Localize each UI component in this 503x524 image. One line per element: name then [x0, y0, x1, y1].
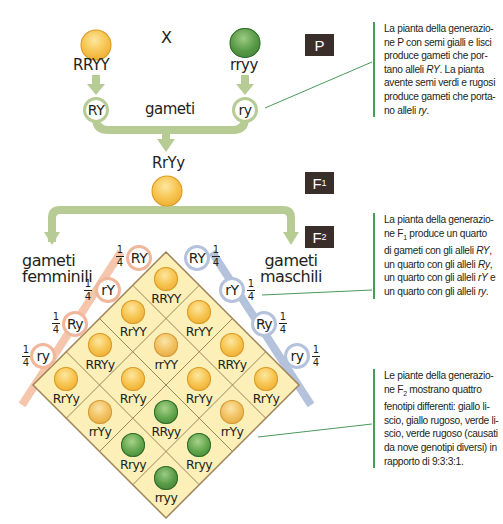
cell-rryy: rryy: [155, 490, 177, 505]
cell-RrYy-3: RrYy: [186, 391, 212, 406]
p-generation-note: La pianta della generazio- ne P con semi…: [373, 22, 502, 117]
male-gamete-ry: ry: [284, 343, 310, 369]
f1-note-line: un quarto con gli alleli rY e: [384, 271, 502, 285]
f1-note-text: un quarto con gli alleli: [384, 286, 478, 297]
fraction-female-rY: 14: [84, 279, 92, 302]
f2-note-line: rapporto di 9:3:3:1.: [384, 455, 502, 469]
frac-den: 4: [248, 291, 254, 302]
p-note-allele: RY: [426, 64, 439, 75]
f2-note-line: scio, verde rugoso (causati: [384, 427, 502, 441]
frac-den: 4: [53, 324, 59, 335]
f2-note-text: mostrano quattro: [407, 384, 482, 395]
f1-note-line: un quarto con gli alleli Ry,: [384, 258, 502, 272]
frac-num: 1: [23, 344, 29, 355]
f2-split-connector: [52, 210, 291, 242]
male-gamete-rY: rY: [219, 277, 245, 303]
parent-green-wrinkled-seed: [230, 28, 261, 58]
frac-den: 4: [117, 257, 123, 268]
cross-symbol: X: [161, 28, 171, 47]
f1-note-line: di gameti con gli alleli RY,: [384, 244, 502, 258]
f2-note-connector: [258, 424, 372, 437]
badge-p-text: P: [314, 37, 324, 54]
male-label-line2: maschili: [260, 269, 322, 285]
f2-note-line: da nove genotipi diversi) in: [384, 441, 502, 455]
p-note-line: tano alleli RY. La pianta: [384, 63, 502, 77]
cell-RrYY-a: RrYY: [120, 324, 147, 339]
frac-num: 1: [248, 278, 254, 289]
p-note-line: La pianta della generazio-: [384, 22, 502, 36]
f2-note-line: scio, giallo rugoso, verde li-: [384, 414, 502, 428]
seed-RrYy-4: [254, 367, 278, 391]
seed-RrYy-2: [121, 367, 145, 391]
p-note-line: no alleli ry.: [384, 104, 502, 118]
f2-generation-note: Le piante della generazio- ne F2 mostran…: [373, 369, 502, 468]
gamete-merge-connector: [96, 118, 245, 130]
cell-Rryy-a: Rryy: [120, 457, 146, 472]
cell-RRYy-a: RRYy: [85, 357, 114, 372]
f1-note-line: ne F1 produce un quarto: [384, 227, 502, 245]
seed-rryy: [154, 466, 178, 490]
male-gamete-RY: RY: [184, 245, 210, 271]
seed-RRYy-b: [220, 333, 244, 357]
f1-note-allele: RY: [476, 245, 489, 256]
seed-RrYy-3: [187, 367, 211, 391]
badge-f1: F1: [305, 172, 334, 194]
f2-note-line: fenotipi differenti: giallo li-: [384, 400, 502, 414]
f1-note-text: e: [487, 272, 495, 283]
badge-p: P: [305, 34, 334, 56]
seed-RrYY-a: [121, 300, 145, 324]
seed-rrYy-b: [220, 400, 244, 424]
cell-rrYy-b: rrYy: [221, 424, 244, 439]
fraction-male-Ry: 14: [279, 312, 287, 335]
badge-f2-letter: F: [312, 229, 321, 246]
fraction-female-RY: 14: [116, 245, 124, 268]
f1-generation-note: La pianta della generazio- ne F1 produce…: [373, 213, 502, 299]
seed-rrYy-a: [88, 400, 112, 424]
female-gamete-rY: rY: [95, 277, 121, 303]
f1-note-text: produce un quarto: [407, 228, 487, 239]
male-gametes-label: gameti maschili: [260, 253, 322, 285]
cell-Rryy-b: Rryy: [186, 457, 212, 472]
gametes-label: gameti: [145, 100, 195, 118]
p-note-line: ne P con semi gialli e lisci: [384, 36, 502, 50]
frac-num: 1: [213, 244, 219, 255]
frac-den: 4: [313, 357, 319, 368]
fraction-male-rY: 14: [247, 279, 255, 302]
frac-den: 4: [85, 291, 91, 302]
badge-f2: F2: [305, 226, 334, 248]
f1-note-connector: [262, 290, 372, 295]
f1-note-text: di gameti con gli alleli: [384, 245, 476, 256]
cell-rrYy-a: rrYy: [89, 424, 112, 439]
parent-right-genotype: rryy: [230, 56, 258, 74]
female-gamete-RY: RY: [126, 245, 152, 271]
frac-num: 1: [85, 278, 91, 289]
parent-left-genotype: RRYY: [73, 56, 109, 74]
female-gamete-ry: ry: [30, 343, 56, 369]
p-note-line: produce gameti che porta-: [384, 90, 502, 104]
female-gamete-Ry: Ry: [62, 311, 88, 337]
cell-RRYY: RRYY: [151, 291, 180, 306]
frac-num: 1: [313, 344, 319, 355]
cell-rrYY: rrYY: [155, 357, 178, 372]
f1-note-text: ,: [490, 259, 493, 270]
seed-RrYy-1: [54, 367, 78, 391]
p-note-text: . La pianta: [439, 64, 483, 75]
p-note-line: produce gameti che por-: [384, 49, 502, 63]
cell-RRYy-b: RRYy: [217, 357, 246, 372]
fraction-male-RY: 14: [212, 245, 220, 268]
cell-RRyy: RRyy: [151, 424, 180, 439]
gamete-RY: RY: [83, 97, 109, 123]
f1-note-allele: ry: [478, 286, 486, 297]
gamete-ry: ry: [232, 97, 258, 123]
cell-RrYy-2: RrYy: [120, 391, 146, 406]
seed-Rryy-a: [121, 433, 145, 457]
frac-num: 1: [53, 311, 59, 322]
cell-RrYy-1: RrYy: [53, 391, 79, 406]
cell-RrYy-4: RrYy: [253, 391, 279, 406]
cell-RrYY-b: RrYY: [186, 324, 213, 339]
female-label-line2: femminili: [22, 269, 92, 285]
seed-RRYY: [154, 267, 178, 291]
f1-note-text: ,: [489, 245, 492, 256]
frac-den: 4: [280, 324, 286, 335]
frac-den: 4: [213, 257, 219, 268]
